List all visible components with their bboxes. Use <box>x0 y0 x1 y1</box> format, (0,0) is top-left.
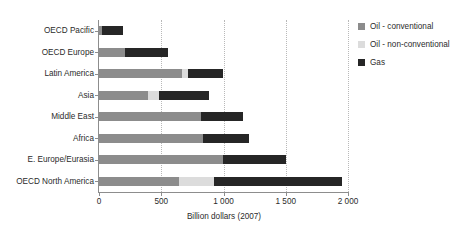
bar-segment <box>125 48 168 57</box>
category-tick <box>95 31 99 32</box>
bar-segment <box>99 91 148 100</box>
bar-segment <box>201 112 243 121</box>
bar-segment <box>188 69 223 78</box>
x-axis-tick-label: 2 000 <box>338 197 359 207</box>
category-label: OECD North America <box>2 177 94 186</box>
gridline <box>161 20 163 192</box>
x-axis-title: Billion dollars (2007) <box>99 212 349 221</box>
legend-item[interactable]: Gas <box>358 58 450 67</box>
bar-segment <box>99 48 125 57</box>
bar-segment <box>99 112 201 121</box>
legend-swatch-icon <box>358 59 365 66</box>
category-tick <box>95 95 99 96</box>
x-axis-tick <box>161 192 162 196</box>
legend-swatch-icon <box>358 41 365 48</box>
gridline <box>224 20 226 192</box>
plot-area <box>99 20 348 192</box>
category-axis-labels: OECD PacificOECD EuropeLatin AmericaAsia… <box>0 20 94 192</box>
bar-group <box>99 134 249 143</box>
x-axis-tick <box>286 192 287 196</box>
legend-item[interactable]: Oil - non-conventional <box>358 40 450 49</box>
category-tick <box>95 117 99 118</box>
bar-segment <box>223 155 286 164</box>
stacked-bar-chart: OECD PacificOECD EuropeLatin AmericaAsia… <box>0 0 468 237</box>
bar-segment <box>203 134 249 143</box>
x-axis-tick-label: 500 <box>154 197 168 207</box>
bar-group <box>99 91 209 100</box>
bar-segment <box>159 91 208 100</box>
x-axis-tick-label: 1 500 <box>276 197 297 207</box>
bar-segment <box>102 26 123 35</box>
bar-segment <box>99 177 179 186</box>
category-tick <box>95 181 99 182</box>
x-axis-tick-label: 1 000 <box>213 197 234 207</box>
bar-segment <box>148 91 159 100</box>
x-axis-tick <box>224 192 225 196</box>
bar-group <box>99 177 342 186</box>
bar-segment <box>99 69 182 78</box>
bar-group <box>99 48 168 57</box>
category-label: OECD Europe <box>2 48 94 57</box>
legend-label: Gas <box>370 58 385 67</box>
bar-group <box>99 69 223 78</box>
category-label: Latin America <box>2 69 94 78</box>
legend-label: Oil - conventional <box>370 22 433 31</box>
category-tick <box>95 52 99 53</box>
bar-segment <box>99 134 203 143</box>
category-tick <box>95 160 99 161</box>
bar-segment <box>99 155 223 164</box>
chart-legend: Oil - conventionalOil - non-conventional… <box>358 22 450 76</box>
bar-segment <box>214 177 342 186</box>
legend-item[interactable]: Oil - conventional <box>358 22 450 31</box>
gridline <box>348 20 350 192</box>
category-label: Asia <box>2 91 94 100</box>
x-axis-tick <box>99 192 100 196</box>
bar-segment <box>179 177 213 186</box>
bar-group <box>99 112 243 121</box>
gridline <box>286 20 288 192</box>
x-axis-tick <box>348 192 349 196</box>
category-label: E. Europe/Eurasia <box>2 155 94 164</box>
x-axis-tick-label: 0 <box>97 197 102 207</box>
category-label: Middle East <box>2 112 94 121</box>
bar-group <box>99 26 123 35</box>
bar-group <box>99 155 286 164</box>
category-tick <box>95 138 99 139</box>
legend-swatch-icon <box>358 23 365 30</box>
legend-label: Oil - non-conventional <box>370 40 450 49</box>
category-tick <box>95 74 99 75</box>
category-label: Africa <box>2 134 94 143</box>
category-label: OECD Pacific <box>2 26 94 35</box>
